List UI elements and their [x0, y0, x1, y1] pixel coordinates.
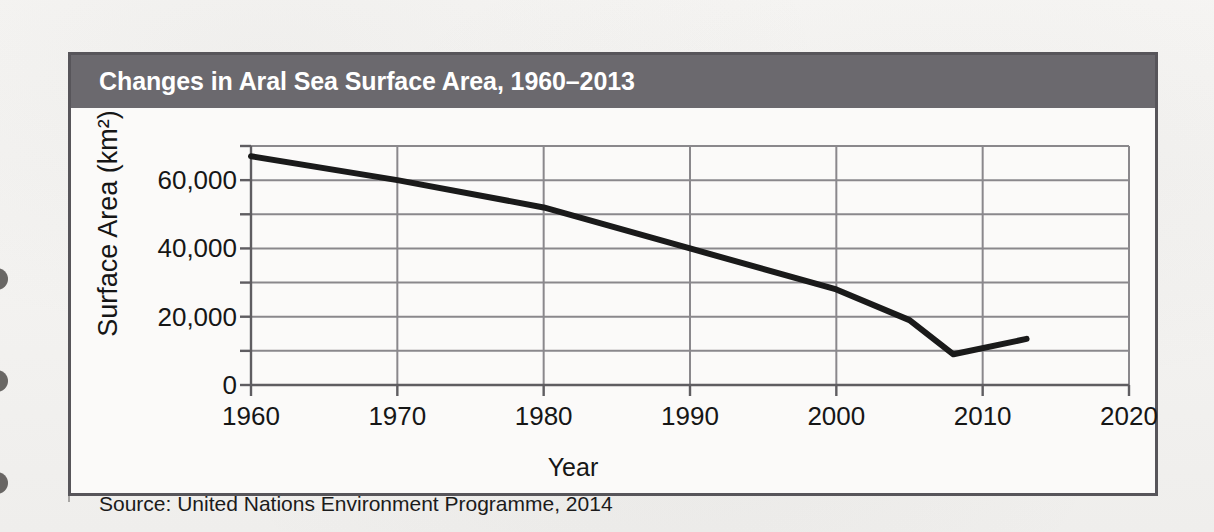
chart-plot-area: Surface Area (km²) 020,00040,00060,000 1…	[71, 108, 1155, 438]
page-edge-mark	[0, 472, 8, 494]
y-axis-title: Surface Area (km²)	[93, 99, 124, 349]
x-tick-label: 2010	[954, 401, 1012, 432]
x-tick-label: 1960	[222, 401, 280, 432]
x-tick-label: 1990	[661, 401, 719, 432]
figure-container: Changes in Aral Sea Surface Area, 1960–2…	[68, 52, 1158, 496]
y-tick-label: 20,000	[157, 301, 237, 332]
source-note: Source: United Nations Environment Progr…	[99, 492, 613, 516]
x-tick-label: 1980	[515, 401, 573, 432]
x-tick-label: 2000	[807, 401, 865, 432]
y-axis-title-text: Surface Area (km²)	[93, 110, 123, 337]
y-tick-label: 60,000	[157, 165, 237, 196]
figure-header-band: Changes in Aral Sea Surface Area, 1960–2…	[71, 55, 1155, 108]
y-tick-label: 0	[223, 370, 237, 401]
page-edge-mark	[0, 370, 8, 392]
vertical-gridlines	[251, 146, 1129, 385]
y-tick-label: 40,000	[157, 233, 237, 264]
x-tick-label: 1970	[368, 401, 426, 432]
scanned-page: Changes in Aral Sea Surface Area, 1960–2…	[0, 0, 1214, 532]
y-axis-ticks	[240, 146, 251, 385]
x-axis-title-text: Year	[548, 453, 599, 481]
page-edge-mark	[0, 268, 8, 290]
figure-body: Surface Area (km²) 020,00040,00060,000 1…	[71, 108, 1155, 493]
data-series-line	[251, 156, 1027, 354]
x-axis-ticks	[251, 385, 1129, 396]
figure-title: Changes in Aral Sea Surface Area, 1960–2…	[99, 67, 635, 96]
x-tick-label: 2020	[1100, 401, 1158, 432]
x-axis-title: Year	[71, 453, 1155, 482]
